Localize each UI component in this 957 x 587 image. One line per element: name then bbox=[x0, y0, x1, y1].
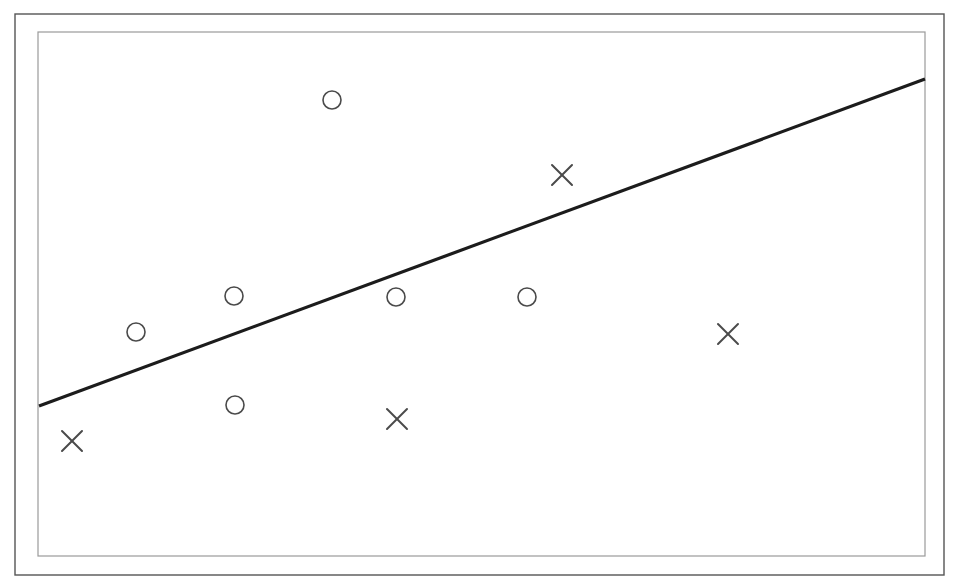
scatter-plot-svg bbox=[0, 0, 957, 587]
figure-root bbox=[0, 0, 957, 587]
plot-background bbox=[0, 0, 957, 587]
